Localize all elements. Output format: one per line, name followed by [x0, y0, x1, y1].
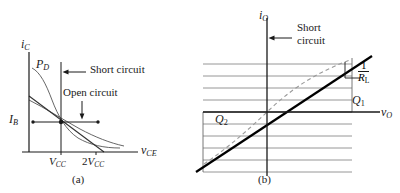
panel-b-x-axis-label: vO: [381, 106, 392, 120]
panel-b-caption: (b): [258, 174, 271, 185]
panel-b-slope-fraction: 1 RL: [358, 60, 369, 85]
panel-b-y-axis-label: iO: [259, 9, 268, 23]
panel-a-tick-label-2vcc: 2VCC: [82, 156, 104, 169]
open-circuit-arrowhead-a: [80, 114, 85, 120]
ib-left-dot: [31, 120, 34, 123]
panel-a-pd-label: PD: [36, 58, 49, 72]
operating-point-dot: [59, 120, 63, 124]
panel-a-ib-label: IB: [9, 113, 18, 127]
panel-a-tick-label-vcc: VCC: [49, 156, 66, 169]
panel-a-y-axis-label: iC: [21, 38, 30, 52]
short-circuit-arrowhead-a: [63, 70, 69, 75]
short-circuit-arrowhead-b: [269, 36, 275, 41]
panel-b-short-circuit-label-line2: circuit: [297, 35, 325, 46]
panel-a-caption: (a): [72, 174, 84, 185]
panel-a-short-circuit-label: Short circuit: [90, 64, 145, 75]
panel-a-x-axis-label: vCE: [141, 144, 157, 158]
load-line-a: [29, 96, 104, 152]
ib-right-dot: [96, 120, 99, 123]
panel-a-open-circuit-label: Open circuit: [63, 87, 118, 98]
panel-b-q1-label: Q1: [352, 94, 365, 108]
slope-denominator: RL: [358, 71, 369, 85]
slope-numerator: 1: [358, 60, 369, 71]
panel-b-short-circuit-label-line1: Short: [297, 22, 321, 33]
panel-b-q2-label: Q2: [215, 113, 228, 127]
